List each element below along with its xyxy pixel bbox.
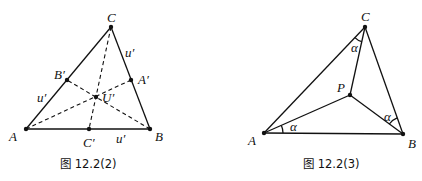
label-b: B <box>408 136 416 151</box>
point-b-prime <box>65 78 69 82</box>
caption-12-2-3: 图 12.2(3) <box>303 157 360 171</box>
side-label-right: u′ <box>125 45 135 60</box>
side-label-left: u′ <box>37 90 47 105</box>
point-a-prime <box>129 78 133 82</box>
label-a: A <box>8 129 17 144</box>
point-c <box>363 25 367 29</box>
point-c <box>109 25 113 29</box>
diagram-canvas: A B C A′ B′ C′ U′ u′ u′ u′ 图 12.2(2) A B… <box>0 0 422 181</box>
figure-12-2-2: A B C A′ B′ C′ U′ u′ u′ u′ 图 12.2(2) <box>8 10 163 171</box>
angle-arc-a <box>281 125 283 133</box>
side-ac <box>26 27 111 129</box>
angle-label-b: α <box>384 109 392 124</box>
label-p: P <box>336 80 345 95</box>
segment-ap <box>264 95 350 133</box>
point-u-prime <box>94 95 98 99</box>
label-c: C <box>107 10 116 25</box>
label-b-prime: B′ <box>54 67 65 82</box>
label-c: C <box>361 9 370 24</box>
point-a <box>262 131 266 135</box>
figure-12-2-3: A B C P α α α 图 12.2(3) <box>247 9 416 171</box>
label-c-prime: C′ <box>83 135 95 150</box>
angle-label-c: α <box>351 40 359 55</box>
side-ac <box>264 27 365 133</box>
label-a-prime: A′ <box>137 72 149 87</box>
cevian-c-cprime <box>89 27 111 129</box>
label-u-prime: U′ <box>102 90 114 105</box>
angle-label-a: α <box>290 119 298 134</box>
side-label-bottom: u′ <box>116 131 126 146</box>
point-a <box>24 127 28 131</box>
segment-cp <box>350 27 365 95</box>
point-b <box>148 127 152 131</box>
point-c-prime <box>87 127 91 131</box>
point-b <box>401 132 405 136</box>
side-ab <box>264 133 403 134</box>
label-a: A <box>247 133 256 148</box>
segment-bp <box>350 95 403 134</box>
label-b: B <box>155 129 163 144</box>
point-p <box>348 93 352 97</box>
caption-12-2-2: 图 12.2(2) <box>60 157 117 171</box>
